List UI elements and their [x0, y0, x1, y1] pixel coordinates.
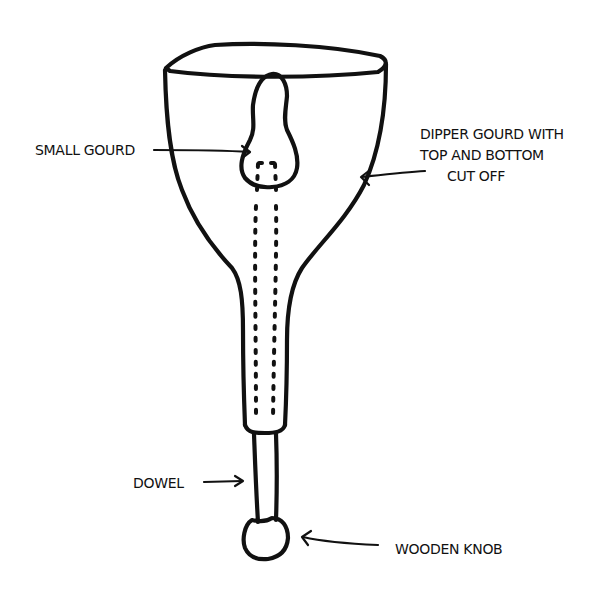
- label-dowel: DOWEL: [133, 475, 184, 491]
- dipper-gourd-neck-bottom: [245, 425, 285, 433]
- wooden-knob-arrow: [302, 531, 378, 545]
- gourd-diagram: SMALL GOURD DIPPER GOURD WITH TOP AND BO…: [0, 0, 614, 592]
- dipper-gourd-body-right: [285, 64, 386, 425]
- dowel-arrow: [204, 476, 243, 486]
- label-dipper-gourd-line3: CUT OFF: [447, 168, 505, 184]
- dowel-left-edge: [254, 434, 258, 522]
- label-dipper-gourd-line2: TOP AND BOTTOM: [419, 147, 544, 163]
- hidden-dowel-line-left: [255, 164, 258, 420]
- dowel-right-edge: [276, 434, 277, 520]
- small-gourd: [241, 74, 297, 187]
- label-small-gourd: SMALL GOURD: [35, 142, 135, 158]
- label-wooden-knob: WOODEN KNOB: [395, 541, 502, 557]
- small-gourd-arrow: [154, 146, 250, 158]
- dipper-gourd-body-left: [165, 70, 245, 425]
- wooden-knob: [244, 518, 288, 559]
- hidden-dowel-line-right: [273, 164, 276, 420]
- dipper-gourd-rim: [166, 44, 386, 77]
- label-dipper-gourd-line1: DIPPER GOURD WITH: [420, 126, 564, 142]
